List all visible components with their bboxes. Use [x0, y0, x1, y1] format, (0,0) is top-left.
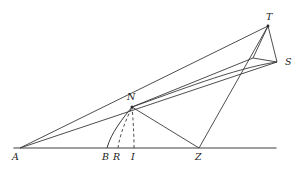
point-label-B: B — [102, 152, 109, 162]
geometry-figure: A B R I Z N T S — [0, 0, 305, 171]
point-label-S: S — [285, 57, 292, 67]
segment-N-to-V — [132, 58, 253, 107]
dashed-arc-I-to-N — [132, 107, 134, 148]
figure-canvas — [0, 0, 305, 171]
point-label-R: R — [113, 152, 120, 162]
segment-A-to-S — [20, 62, 277, 148]
segment-T-to-V — [253, 26, 268, 58]
segment-N-to-Z — [132, 107, 199, 148]
vertex-dot-N — [131, 106, 134, 109]
point-label-T: T — [266, 12, 272, 22]
vertex-dot-T — [267, 25, 270, 28]
point-label-N: N — [127, 92, 135, 102]
point-label-Z: Z — [195, 152, 202, 162]
segment-A-to-T — [20, 26, 268, 148]
segment-T-to-S — [268, 26, 277, 62]
point-label-I: I — [131, 152, 135, 162]
point-label-A: A — [12, 152, 19, 162]
bowed-curve-N-to-S — [132, 62, 277, 107]
segment-Z-to-T — [199, 26, 268, 148]
segment-V-to-S — [253, 58, 277, 62]
